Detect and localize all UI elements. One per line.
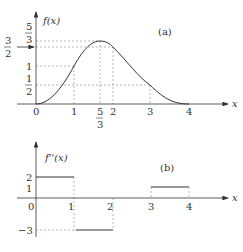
ytick-5-3-num: 5 — [26, 21, 32, 32]
panel-a: f(x) (a) x 5 3 3 2 1 1 2 0 1 5 3 2 3 4 — [4, 12, 238, 130]
ytick-3-2-num: 3 — [5, 35, 11, 46]
y-axis-label-a: f(x) — [42, 15, 60, 26]
curve-f — [36, 41, 189, 104]
ytick-5-3-den: 3 — [26, 34, 32, 45]
ytick-1-b: 1 — [26, 183, 32, 194]
xtick-4-b: 4 — [186, 201, 192, 212]
x-axis-label-b: x — [232, 192, 238, 203]
y-axis-label-b: f''(x) — [44, 152, 68, 163]
panel-b: f''(x) (b) x 2 1 −3 0 1 2 3 4 — [17, 142, 238, 237]
xtick-3-b: 3 — [148, 201, 154, 212]
ytick-3-2-den: 2 — [5, 48, 11, 59]
panel-label-a: (a) — [158, 26, 172, 37]
xtick-1-b: 1 — [68, 201, 74, 212]
xtick-2-b: 2 — [107, 201, 113, 212]
xtick-5-3-num: 5 — [97, 106, 103, 117]
xtick-3-a: 3 — [147, 106, 153, 117]
ytick-1-2-den: 2 — [26, 86, 32, 97]
guide-lines-a — [36, 41, 150, 104]
ytick-1: 1 — [26, 61, 32, 72]
xtick-0-a: 0 — [33, 106, 39, 117]
xtick-4-a: 4 — [186, 106, 192, 117]
diagram: f(x) (a) x 5 3 3 2 1 1 2 0 1 5 3 2 3 4 — [0, 0, 243, 252]
ytick-1-2-num: 1 — [26, 73, 32, 84]
xtick-1-a: 1 — [71, 106, 77, 117]
ytick-m3-b: −3 — [18, 225, 33, 236]
x-axis-label-a: x — [232, 98, 238, 109]
xtick-5-3-den: 3 — [97, 119, 103, 130]
ytick-2-b: 2 — [26, 172, 32, 183]
panel-label-b: (b) — [160, 162, 174, 173]
xtick-0-b: 0 — [28, 201, 34, 212]
xtick-2-a: 2 — [110, 106, 116, 117]
